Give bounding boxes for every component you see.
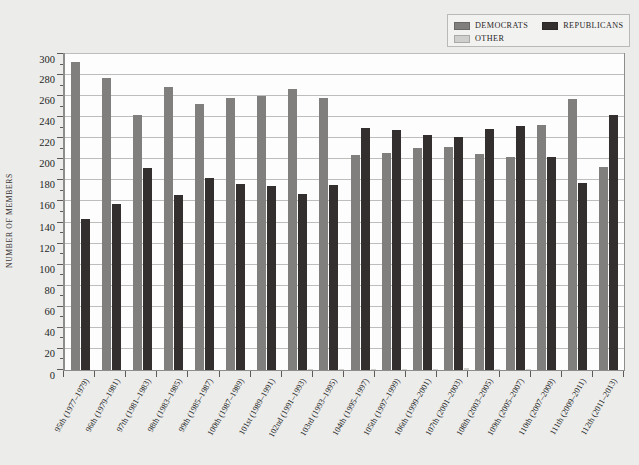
bar-group — [102, 54, 122, 370]
legend-label-other: OTHER — [475, 34, 504, 43]
y-tick-label: 20 — [45, 348, 56, 349]
y-tick-label: 180 — [39, 180, 55, 181]
bar-series-container — [65, 54, 624, 370]
y-tick-label: 40 — [45, 327, 56, 328]
bar-democrats — [537, 125, 546, 370]
bar-democrats — [444, 147, 453, 370]
bar-republicans — [267, 186, 276, 370]
bar-republicans — [112, 204, 121, 370]
bar-democrats — [257, 96, 266, 370]
y-tick-label: 60 — [45, 306, 56, 307]
bar-republicans — [143, 168, 152, 370]
bar-group — [599, 54, 619, 370]
y-tick-label: 300 — [39, 54, 55, 55]
bar-group — [133, 54, 153, 370]
bar-group — [506, 54, 526, 370]
bar-group — [413, 54, 433, 370]
bar-group — [226, 54, 246, 370]
bar-group — [164, 54, 184, 370]
bar-democrats — [133, 115, 142, 370]
bar-republicans — [236, 184, 245, 370]
bar-democrats — [319, 98, 328, 370]
bar-republicans — [298, 194, 307, 370]
bar-democrats — [288, 89, 297, 370]
bar-group — [382, 54, 402, 370]
bar-democrats — [568, 99, 577, 370]
y-tick-label: 240 — [39, 117, 55, 118]
bar-republicans — [174, 195, 183, 370]
bar-democrats — [71, 62, 80, 370]
bar-other — [495, 369, 500, 370]
legend-item-republicans: REPUBLICANS — [542, 21, 623, 30]
bar-republicans — [361, 128, 370, 370]
bar-other — [433, 369, 438, 370]
bar-other — [339, 369, 344, 370]
chart-legend: DEMOCRATS REPUBLICANS OTHER — [447, 14, 630, 47]
legend-row-2: OTHER — [454, 32, 623, 45]
bar-democrats — [195, 104, 204, 370]
legend-swatch-other — [454, 35, 470, 43]
y-tick-label: 140 — [39, 222, 55, 223]
y-tick-label: 80 — [45, 285, 56, 286]
bar-democrats — [351, 155, 360, 370]
bar-group — [475, 54, 495, 370]
y-tick-label: 0 — [50, 370, 55, 371]
bar-group — [319, 54, 339, 370]
bar-group — [257, 54, 277, 370]
bar-democrats — [413, 148, 422, 370]
y-tick-label: 220 — [39, 138, 55, 139]
legend-label-republicans: REPUBLICANS — [563, 21, 623, 30]
legend-swatch-democrats — [454, 22, 470, 30]
y-tick-label: 200 — [39, 159, 55, 160]
bar-republicans — [81, 219, 90, 370]
bar-group — [71, 54, 91, 370]
bar-republicans — [329, 185, 338, 370]
bar-democrats — [164, 87, 173, 370]
bar-group — [444, 54, 464, 370]
bar-other — [308, 369, 313, 370]
bar-republicans — [392, 130, 401, 370]
bar-democrats — [475, 154, 484, 370]
legend-row-1: DEMOCRATS REPUBLICANS — [454, 19, 623, 32]
y-tick-label: 260 — [39, 96, 55, 97]
bar-group — [195, 54, 215, 370]
bar-other — [526, 369, 531, 370]
bar-group — [351, 54, 371, 370]
bar-democrats — [382, 153, 391, 370]
bar-democrats — [226, 98, 235, 370]
bar-republicans — [423, 135, 432, 370]
bar-democrats — [102, 78, 111, 370]
y-tick-label: 120 — [39, 243, 55, 244]
legend-swatch-republicans — [542, 22, 558, 30]
bar-democrats — [599, 167, 608, 370]
bar-republicans — [547, 157, 556, 370]
bar-other — [402, 369, 407, 370]
y-tick-label: 100 — [39, 264, 55, 265]
bar-republicans — [516, 126, 525, 370]
legend-item-democrats: DEMOCRATS — [454, 21, 528, 30]
bar-group — [568, 54, 588, 370]
bar-republicans — [578, 183, 587, 370]
bar-republicans — [205, 178, 214, 370]
legend-item-other: OTHER — [454, 34, 504, 43]
x-axis-label: 112th (2011–2013) — [580, 377, 620, 437]
y-tick-label: 280 — [39, 75, 55, 76]
y-tick-label: 160 — [39, 201, 55, 202]
bar-democrats — [506, 157, 515, 370]
bar-group — [288, 54, 308, 370]
legend-label-democrats: DEMOCRATS — [475, 21, 528, 30]
bar-republicans — [609, 115, 618, 370]
bar-group — [537, 54, 557, 370]
plot-area — [63, 53, 625, 371]
bar-other — [371, 369, 376, 370]
y-axis: 0204060801001201401601802002202402602803… — [0, 53, 63, 371]
bar-other — [464, 368, 469, 370]
bar-republicans — [485, 129, 494, 370]
bar-republicans — [454, 137, 463, 370]
x-axis-labels: 95th (1977–1979)96th (1979–1981)97th (19… — [0, 377, 639, 465]
